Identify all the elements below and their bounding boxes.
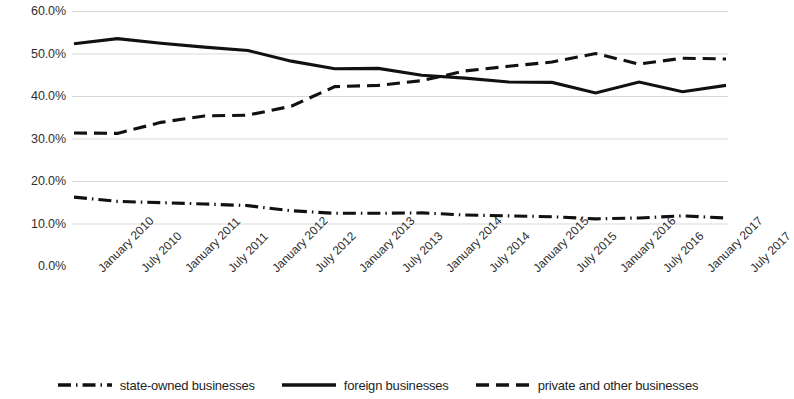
x-axis-tick-label: July 2012 xyxy=(313,266,322,275)
x-axis-tick-label: January 2013 xyxy=(357,266,366,275)
x-axis-tick-label: January 2014 xyxy=(444,266,453,275)
y-axis-tick-label: 60.0% xyxy=(4,5,66,17)
x-axis-tick-label: July 2011 xyxy=(226,266,235,275)
x-axis-tick-label: July 2016 xyxy=(661,266,670,275)
y-axis-tick-label: 30.0% xyxy=(4,133,66,145)
x-axis-tick-label: January 2011 xyxy=(183,266,192,275)
x-axis-tick-label: July 2013 xyxy=(400,266,409,275)
y-axis-tick-label: 40.0% xyxy=(4,90,66,102)
series-line xyxy=(74,54,726,134)
dash-dot-line-icon xyxy=(57,379,113,391)
x-axis-tick-label: July 2010 xyxy=(139,266,148,275)
legend-item: foreign businesses xyxy=(281,378,449,393)
x-axis-tick-label: January 2012 xyxy=(270,266,279,275)
legend-label: foreign businesses xyxy=(344,378,449,393)
series-line xyxy=(74,197,726,219)
x-axis-tick-label: January 2016 xyxy=(618,266,627,275)
x-axis-tick-label: January 2017 xyxy=(705,266,714,275)
x-axis-tick-label: July 2015 xyxy=(574,266,583,275)
legend-item: private and other businesses xyxy=(475,378,699,393)
x-axis: January 2010July 2010January 2011July 20… xyxy=(0,266,755,366)
y-axis: 60.0%50.0%40.0%30.0%20.0%10.0%0.0% xyxy=(0,0,66,280)
x-axis-tick-label: July 2014 xyxy=(487,266,496,275)
chart-legend: state-owned businessesforeign businesses… xyxy=(0,371,755,399)
series-line xyxy=(74,39,726,93)
legend-label: state-owned businesses xyxy=(120,378,255,393)
legend-item: state-owned businesses xyxy=(57,378,255,393)
y-axis-tick-label: 20.0% xyxy=(4,175,66,187)
x-axis-tick-label: January 2015 xyxy=(531,266,540,275)
x-axis-tick-label: July 2017 xyxy=(748,266,757,275)
y-axis-tick-label: 10.0% xyxy=(4,218,66,230)
legend-label: private and other businesses xyxy=(538,378,699,393)
solid-line-icon xyxy=(281,379,337,391)
series-lines xyxy=(74,39,726,219)
y-axis-tick-label: 50.0% xyxy=(4,48,66,60)
x-axis-tick-label: January 2010 xyxy=(96,266,105,275)
dashed-line-icon xyxy=(475,379,531,391)
